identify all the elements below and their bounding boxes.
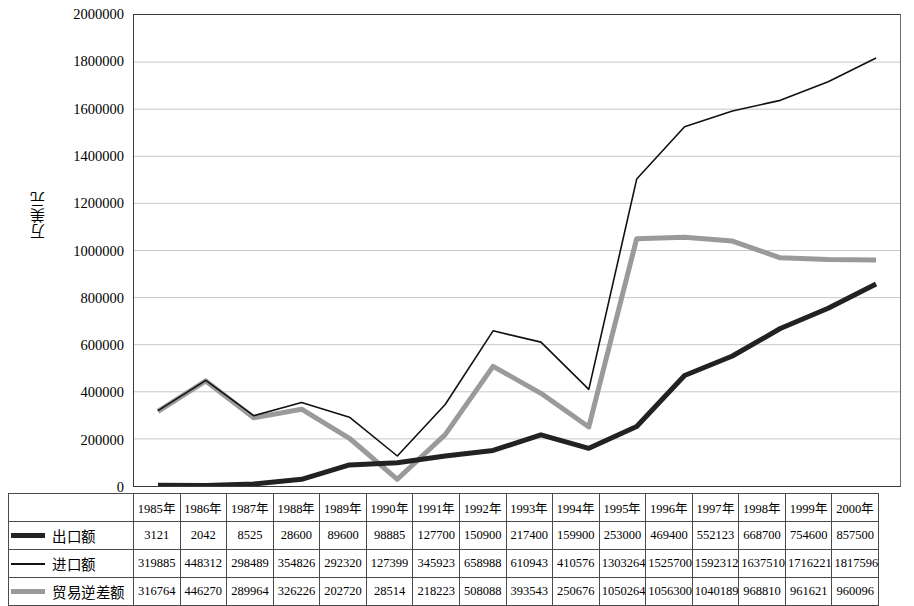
y-tick-label: 1400000 <box>73 147 124 164</box>
data-cell: 345923 <box>413 550 460 578</box>
data-cell: 289964 <box>227 578 274 606</box>
year-header-cell: 1985年 <box>134 494 181 522</box>
data-cell: 354826 <box>273 550 320 578</box>
data-cell: 968810 <box>739 578 786 606</box>
data-cell-empty <box>879 522 907 550</box>
year-header-cell: 1992年 <box>459 494 506 522</box>
legend-label: 进口额 <box>52 553 96 574</box>
legend-label: 贸易逆差额 <box>52 581 125 602</box>
data-cell: 316764 <box>134 578 181 606</box>
data-cell: 98885 <box>366 522 413 550</box>
data-cell: 298489 <box>227 550 274 578</box>
y-tick-label: 1000000 <box>73 242 124 259</box>
legend-swatch-icon <box>11 533 45 538</box>
data-cell: 658988 <box>459 550 506 578</box>
data-cell: 250676 <box>553 578 600 606</box>
year-header-cell: 1988年 <box>273 494 320 522</box>
data-cell: 393543 <box>506 578 553 606</box>
y-tick-label: 1200000 <box>73 195 124 212</box>
data-cell: 1303264 <box>599 550 646 578</box>
table-row: 出口额3121204285252860089600988851277001509… <box>9 522 907 550</box>
data-cell: 202720 <box>320 578 367 606</box>
table-body: 出口额3121204285252860089600988851277001509… <box>9 522 907 606</box>
data-cell: 28514 <box>366 578 413 606</box>
year-header-cell: 1998年 <box>739 494 786 522</box>
y-axis-tick-labels: 2000000180000016000001400000120000010000… <box>56 0 128 496</box>
y-tick-label: 200000 <box>81 431 125 448</box>
year-header-cell: 1996年 <box>646 494 693 522</box>
year-header-cell: 1987年 <box>227 494 274 522</box>
legend-cell: 贸易逆差额 <box>9 578 134 606</box>
year-header-cell: 1995年 <box>599 494 646 522</box>
data-cell: 326226 <box>273 578 320 606</box>
data-cell: 469400 <box>646 522 693 550</box>
year-header-cell: 1993年 <box>506 494 553 522</box>
data-cell: 127700 <box>413 522 460 550</box>
data-cell: 1525700 <box>646 550 693 578</box>
data-cell: 150900 <box>459 522 506 550</box>
year-header-empty-cell <box>879 494 907 522</box>
year-header-cell: 1997年 <box>692 494 739 522</box>
table-row: 进口额3198854483122984893548262923201273993… <box>9 550 907 578</box>
table-header-row: 1985年1986年1987年1988年1989年1990年1991年1992年… <box>9 494 907 522</box>
y-tick-label: 800000 <box>81 289 125 306</box>
data-cell: 668700 <box>739 522 786 550</box>
data-cell: 1637510 <box>739 550 786 578</box>
data-cell: 253000 <box>599 522 646 550</box>
legend-label: 出口额 <box>52 525 96 546</box>
y-tick-label: 400000 <box>81 384 125 401</box>
y-tick-label: 600000 <box>81 337 125 354</box>
plot-area <box>133 14 901 487</box>
table-row: 贸易逆差额31676444627028996432622620272028514… <box>9 578 907 606</box>
year-header-cell: 1989年 <box>320 494 367 522</box>
legend-swatch-icon <box>11 589 45 594</box>
table-corner-cell <box>9 494 134 522</box>
y-axis-title: 万美元 <box>16 150 60 280</box>
data-cell: 410576 <box>553 550 600 578</box>
year-header-cell: 2000年 <box>832 494 879 522</box>
series-line-0 <box>158 284 876 485</box>
series-canvas <box>134 15 900 486</box>
data-cell: 446270 <box>180 578 227 606</box>
data-cell: 960096 <box>832 578 879 606</box>
data-cell: 218223 <box>413 578 460 606</box>
data-cell: 3121 <box>134 522 181 550</box>
year-header-cell: 1990年 <box>366 494 413 522</box>
legend-cell: 出口额 <box>9 522 134 550</box>
data-cell: 319885 <box>134 550 181 578</box>
data-cell: 448312 <box>180 550 227 578</box>
data-cell: 1050264 <box>599 578 646 606</box>
data-cell: 1716221 <box>785 550 832 578</box>
y-tick-label: 1600000 <box>73 100 124 117</box>
year-header-cell: 1999年 <box>785 494 832 522</box>
data-table: 1985年1986年1987年1988年1989年1990年1991年1992年… <box>8 493 907 606</box>
data-cell: 2042 <box>180 522 227 550</box>
y-tick-label: 2000000 <box>73 6 124 23</box>
data-cell: 217400 <box>506 522 553 550</box>
y-tick-label: 1800000 <box>73 53 124 70</box>
data-cell: 508088 <box>459 578 506 606</box>
series-line-1 <box>158 58 876 456</box>
year-header-cell: 1991年 <box>413 494 460 522</box>
data-cell: 28600 <box>273 522 320 550</box>
data-cell-empty <box>879 578 907 606</box>
year-header-cell: 1986年 <box>180 494 227 522</box>
data-cell: 8525 <box>227 522 274 550</box>
data-cell: 292320 <box>320 550 367 578</box>
data-cell: 754600 <box>785 522 832 550</box>
data-table-container: 1985年1986年1987年1988年1989年1990年1991年1992年… <box>8 493 906 602</box>
legend-cell: 进口额 <box>9 550 134 578</box>
data-cell: 1040189 <box>692 578 739 606</box>
data-cell: 857500 <box>832 522 879 550</box>
data-cell-empty <box>879 550 907 578</box>
data-cell: 610943 <box>506 550 553 578</box>
data-cell: 159900 <box>553 522 600 550</box>
year-header-cell: 1994年 <box>553 494 600 522</box>
data-cell: 1056300 <box>646 578 693 606</box>
data-cell: 1592312 <box>692 550 739 578</box>
legend-swatch-icon <box>11 563 45 565</box>
data-cell: 1817596 <box>832 550 879 578</box>
data-cell: 961621 <box>785 578 832 606</box>
data-cell: 89600 <box>320 522 367 550</box>
